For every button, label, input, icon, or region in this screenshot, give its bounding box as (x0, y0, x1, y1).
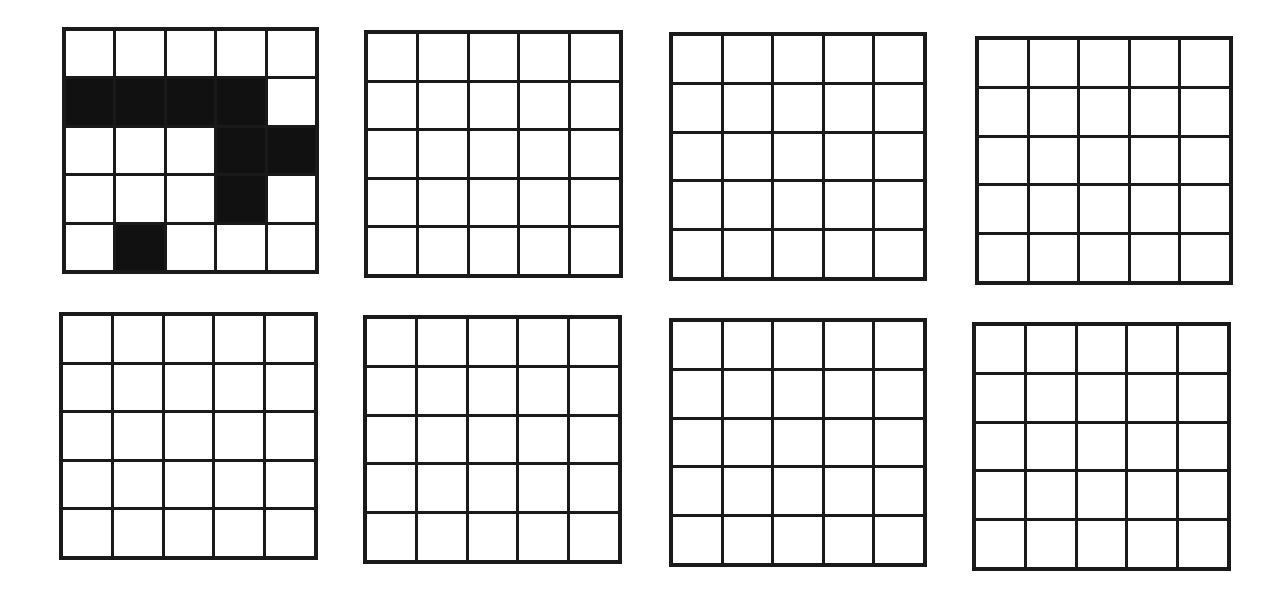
empty-cell-r1-c1 (418, 368, 466, 414)
empty-cell-r0-c2 (165, 316, 213, 362)
empty-cell-r3-c0 (367, 465, 415, 511)
empty-cell-r3-c3 (519, 465, 567, 511)
empty-cell-r4-c2 (774, 517, 822, 563)
empty-cell-r2-c4 (266, 413, 314, 459)
empty-cell-r2-c2 (469, 417, 517, 463)
empty-cell-r4-c4 (1181, 235, 1229, 281)
empty-cell-r1-c0 (976, 375, 1024, 421)
empty-cell-r2-c3 (519, 417, 567, 463)
empty-cell-r0-c3 (1131, 40, 1179, 86)
empty-cell-r1-c1 (724, 85, 772, 131)
empty-cell-r4-c1 (1027, 521, 1075, 567)
empty-cell-r3-c3 (1128, 472, 1176, 518)
empty-cell-r3-c0 (63, 462, 111, 508)
empty-cell-r3-c0 (673, 468, 721, 514)
empty-cell-r1-c4 (875, 371, 923, 417)
empty-cell-r3-c1 (116, 176, 163, 221)
grid-3 (669, 32, 927, 281)
empty-cell-r2-c2 (1078, 424, 1126, 470)
empty-cell-r2-c3 (825, 134, 873, 180)
empty-cell-r2-c2 (774, 420, 822, 466)
empty-cell-r1-c0 (63, 365, 111, 411)
empty-cell-r0-c0 (976, 326, 1024, 372)
empty-cell-r1-c1 (419, 83, 467, 129)
empty-cell-r0-c1 (418, 319, 466, 365)
empty-cell-r4-c4 (266, 510, 314, 556)
empty-cell-r4-c4 (1179, 521, 1227, 567)
empty-cell-r0-c4 (1181, 40, 1229, 86)
empty-cell-r4-c0 (976, 521, 1024, 567)
empty-cell-r4-c0 (673, 231, 721, 277)
empty-cell-r3-c4 (875, 182, 923, 228)
empty-cell-r4-c0 (368, 228, 416, 274)
empty-cell-r2-c0 (976, 424, 1024, 470)
empty-cell-r1-c1 (114, 365, 162, 411)
empty-cell-r3-c3 (825, 182, 873, 228)
empty-cell-r4-c1 (419, 228, 467, 274)
empty-cell-r2-c0 (979, 138, 1027, 184)
empty-cell-r2-c3 (520, 131, 568, 177)
empty-cell-r2-c0 (673, 134, 721, 180)
filled-cell-r1-c0 (66, 79, 113, 124)
empty-cell-r4-c1 (1030, 235, 1078, 281)
empty-cell-r0-c1 (1027, 326, 1075, 372)
empty-cell-r3-c2 (1080, 186, 1128, 232)
empty-cell-r3-c4 (266, 462, 314, 508)
filled-cell-r3-c3 (217, 176, 264, 221)
empty-cell-r3-c3 (520, 180, 568, 226)
empty-cell-r0-c4 (571, 34, 619, 80)
empty-cell-r1-c1 (1027, 375, 1075, 421)
grid-1 (62, 27, 319, 274)
filled-cell-r1-c2 (167, 79, 214, 124)
empty-cell-r4-c0 (66, 225, 113, 270)
empty-cell-r4-c0 (673, 517, 721, 563)
empty-cell-r1-c0 (367, 368, 415, 414)
empty-cell-r3-c1 (1030, 186, 1078, 232)
filled-cell-r4-c1 (116, 225, 163, 270)
empty-cell-r3-c1 (419, 180, 467, 226)
empty-cell-r0-c4 (268, 31, 315, 76)
empty-cell-r0-c2 (1078, 326, 1126, 372)
empty-cell-r2-c2 (774, 134, 822, 180)
empty-cell-r1-c2 (1080, 89, 1128, 135)
empty-cell-r3-c0 (976, 472, 1024, 518)
empty-cell-r4-c1 (724, 517, 772, 563)
empty-cell-r2-c3 (825, 420, 873, 466)
grid-4 (975, 36, 1233, 285)
empty-cell-r2-c4 (571, 131, 619, 177)
empty-cell-r0-c3 (1128, 326, 1176, 372)
empty-cell-r0-c1 (724, 36, 772, 82)
empty-cell-r0-c2 (774, 36, 822, 82)
empty-cell-r2-c1 (1030, 138, 1078, 184)
empty-cell-r4-c3 (825, 231, 873, 277)
empty-cell-r3-c4 (268, 176, 315, 221)
empty-cell-r2-c0 (63, 413, 111, 459)
empty-cell-r3-c1 (114, 462, 162, 508)
empty-cell-r2-c4 (1179, 424, 1227, 470)
empty-cell-r1-c3 (520, 83, 568, 129)
empty-cell-r3-c0 (673, 182, 721, 228)
empty-cell-r1-c0 (368, 83, 416, 129)
empty-cell-r1-c2 (1078, 375, 1126, 421)
empty-cell-r2-c4 (875, 420, 923, 466)
empty-cell-r4-c0 (63, 510, 111, 556)
empty-cell-r0-c1 (114, 316, 162, 362)
filled-cell-r2-c4 (268, 128, 315, 173)
empty-cell-r4-c2 (1080, 235, 1128, 281)
empty-cell-r4-c3 (1128, 521, 1176, 567)
empty-cell-r0-c3 (825, 36, 873, 82)
empty-cell-r1-c3 (825, 371, 873, 417)
empty-cell-r1-c0 (979, 89, 1027, 135)
empty-cell-r2-c0 (368, 131, 416, 177)
grid-6 (363, 315, 622, 564)
empty-cell-r0-c2 (469, 319, 517, 365)
empty-cell-r1-c3 (825, 85, 873, 131)
empty-cell-r4-c2 (774, 231, 822, 277)
empty-cell-r3-c2 (1078, 472, 1126, 518)
empty-cell-r3-c2 (167, 176, 214, 221)
empty-cell-r0-c3 (215, 316, 263, 362)
empty-cell-r0-c3 (217, 31, 264, 76)
empty-cell-r3-c2 (469, 465, 517, 511)
empty-cell-r4-c3 (825, 517, 873, 563)
filled-cell-r1-c3 (217, 79, 264, 124)
